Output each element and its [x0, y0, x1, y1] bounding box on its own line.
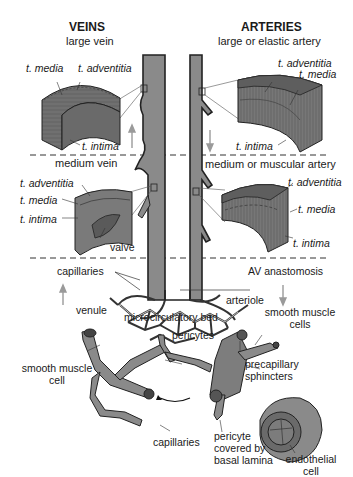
medium-vein-media-label: t. media	[20, 194, 57, 206]
pericytes-label: pericytes	[172, 329, 214, 341]
vein-trunk	[135, 55, 165, 300]
smooth-muscle-cell-label: smooth muscle cell	[16, 362, 98, 386]
smooth-muscle-cell-text: smooth muscle cell	[22, 362, 93, 386]
medium-artery-title: medium or muscular artery	[205, 158, 336, 170]
medium-artery-block	[222, 184, 288, 252]
medium-artery-adventitia-label: t. adventitia	[288, 176, 342, 188]
pericyte-covered-label: pericyte covered by basal lamina	[214, 430, 284, 466]
artery-trunk	[190, 55, 212, 300]
venule-label: venule	[76, 304, 107, 316]
smooth-muscle-cells-label: smooth muscle cells	[260, 306, 340, 330]
smooth-muscle-cells-text: smooth muscle cells	[265, 306, 336, 330]
microcirculatory-bed-label: microcirculatory bed	[124, 311, 218, 323]
precapillary-sphincters-label: precapillary sphincters	[245, 358, 315, 382]
medium-vein-adventitia-label: t. adventitia	[20, 177, 74, 189]
precapillary-sphincters-text: precapillary sphincters	[245, 358, 299, 382]
medium-vein-intima-label: t. intima	[20, 213, 57, 225]
large-artery-intima-label: t. intima	[236, 140, 273, 152]
arteries-header: ARTERIES	[241, 20, 302, 34]
medium-vein-title: medium vein	[55, 157, 117, 169]
large-vein-adventitia-label: t. adventitia	[78, 62, 132, 74]
medium-artery-media-label: t. media	[298, 203, 335, 215]
large-vein-media-label: t. media	[26, 62, 63, 74]
pericyte-covered-text: pericyte covered by basal lamina	[214, 430, 273, 466]
large-vein-title: large vein	[66, 35, 114, 47]
medium-artery-intima-label: t. intima	[293, 237, 330, 249]
large-artery-media-label: t. media	[299, 68, 336, 80]
arteriole-label: arteriole	[226, 294, 264, 306]
veins-header: VEINS	[69, 20, 105, 34]
endothelial-cell-text: endothelial cell	[286, 453, 337, 477]
av-anastomosis-label: AV anastomosis	[248, 265, 323, 277]
capillaries-label: capillaries	[57, 265, 104, 277]
capillaries-bottom-label: capillaries	[153, 436, 200, 448]
large-artery-title: large or elastic artery	[218, 35, 321, 47]
large-vein-intima-label: t. intima	[82, 140, 119, 152]
endothelial-cell-label: endothelial cell	[280, 453, 342, 477]
medium-vein-valve-label: valve	[110, 241, 135, 253]
